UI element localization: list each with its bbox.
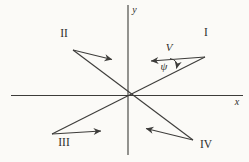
axis-label-x: x	[234, 96, 240, 107]
vector-label-v: V	[166, 41, 174, 53]
diagram-canvas: yxIIIIIIIVVψ	[0, 0, 249, 162]
quadrant-label-ii: II	[60, 27, 68, 39]
vector-arrow-quadrant-i	[151, 57, 205, 61]
axis-label-y: y	[131, 4, 137, 15]
angle-label-psi: ψ	[161, 60, 168, 72]
vector-arrow-quadrant-iii	[52, 131, 101, 134]
quadrant-vector-diagram: yxIIIIIIIVVψ	[0, 0, 249, 162]
quadrant-label-iv: IV	[200, 138, 213, 150]
quadrant-label-i: I	[204, 26, 208, 38]
quadrant-label-iii: III	[58, 136, 70, 148]
